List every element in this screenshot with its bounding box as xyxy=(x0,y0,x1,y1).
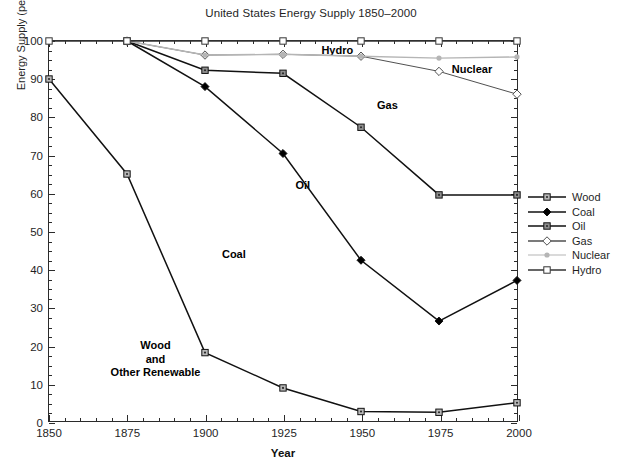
series-gas xyxy=(123,37,521,99)
data-point-marker xyxy=(202,349,208,355)
x-tick-label: 1950 xyxy=(350,427,376,439)
series-coal xyxy=(123,37,521,325)
data-point-marker xyxy=(514,192,520,198)
x-tick-label: 2000 xyxy=(506,427,532,439)
data-point-marker xyxy=(202,52,207,57)
y-tick-mark xyxy=(511,423,517,424)
legend-key-gas-icon xyxy=(527,235,567,247)
x-axis-label: Year xyxy=(49,447,517,459)
data-point-marker xyxy=(543,237,551,245)
energy-supply-chart: United States Energy Supply 1850–2000 En… xyxy=(0,0,622,466)
data-point-marker xyxy=(124,171,130,177)
y-tick-label: 60 xyxy=(30,188,43,200)
legend-key-coal-icon xyxy=(527,206,567,218)
data-point-marker xyxy=(514,400,520,406)
y-tick-mark xyxy=(49,423,55,424)
data-point-marker xyxy=(435,67,443,75)
data-point-marker xyxy=(202,67,208,73)
legend-key-oil-icon xyxy=(527,220,567,232)
data-point-marker xyxy=(543,208,551,216)
series-hydro xyxy=(46,38,520,44)
legend-item-hydro[interactable]: Hydro xyxy=(527,263,619,278)
data-point-marker xyxy=(280,70,286,76)
data-point-marker xyxy=(513,276,521,284)
data-point-marker xyxy=(514,38,520,44)
data-point-marker xyxy=(436,192,442,198)
series-wood xyxy=(46,76,520,416)
data-point-marker xyxy=(544,194,550,200)
legend-item-wood[interactable]: Wood xyxy=(527,190,619,205)
x-tick-mark xyxy=(519,415,520,421)
legend-label: Oil xyxy=(572,220,585,232)
legend-item-nuclear[interactable]: Nuclear xyxy=(527,248,619,263)
y-tick-label: 40 xyxy=(30,264,43,276)
data-point-marker xyxy=(280,52,285,57)
legend-key-hydro-icon xyxy=(527,264,567,276)
series-nuclear xyxy=(124,38,519,60)
chart-title: United States Energy Supply 1850–2000 xyxy=(0,7,622,19)
y-tick-label: 90 xyxy=(30,73,43,85)
data-point-marker xyxy=(202,38,208,44)
data-point-marker xyxy=(544,267,550,273)
x-tick-label: 1900 xyxy=(193,427,219,439)
data-point-marker xyxy=(358,124,364,130)
y-tick-label: 30 xyxy=(30,302,43,314)
data-point-marker xyxy=(436,38,442,44)
y-tick-label: 100 xyxy=(24,35,43,47)
y-tick-label: 80 xyxy=(30,111,43,123)
legend-item-coal[interactable]: Coal xyxy=(527,205,619,220)
data-point-marker xyxy=(358,408,364,414)
legend-key-wood-icon xyxy=(527,191,567,203)
data-point-marker xyxy=(436,409,442,415)
data-point-marker xyxy=(358,38,364,44)
data-point-marker xyxy=(280,38,286,44)
legend-label: Gas xyxy=(572,235,592,247)
legend-item-gas[interactable]: Gas xyxy=(527,234,619,249)
legend-item-oil[interactable]: Oil xyxy=(527,219,619,234)
legend-key-nuclear-icon xyxy=(527,249,567,261)
x-tick-label: 1875 xyxy=(115,427,141,439)
y-axis-label: Energy Supply (percent) xyxy=(15,0,27,131)
legend-label: Nuclear xyxy=(572,249,610,261)
chart-legend: WoodCoalOilGasNuclearHydro xyxy=(527,190,619,277)
data-point-marker xyxy=(514,54,519,59)
data-point-marker xyxy=(544,223,550,229)
data-point-marker xyxy=(358,54,363,59)
x-tick-label: 1975 xyxy=(428,427,454,439)
legend-label: Coal xyxy=(572,206,595,218)
data-point-marker xyxy=(280,385,286,391)
data-point-marker xyxy=(513,90,521,98)
legend-label: Wood xyxy=(572,191,601,203)
y-tick-label: 20 xyxy=(30,341,43,353)
y-tick-label: 70 xyxy=(30,150,43,162)
y-tick-label: 50 xyxy=(30,226,43,238)
series-lines xyxy=(49,41,517,421)
y-tick-label: 10 xyxy=(30,379,43,391)
x-tick-label: 1850 xyxy=(36,427,62,439)
data-point-marker xyxy=(544,253,549,258)
data-point-marker xyxy=(124,38,130,44)
data-point-marker xyxy=(46,38,52,44)
series-oil xyxy=(124,38,520,198)
x-tick-label: 1925 xyxy=(271,427,297,439)
data-point-marker xyxy=(436,56,441,61)
plot-area: Energy Supply (percent) Year 01020304050… xyxy=(48,40,518,422)
data-point-marker xyxy=(46,76,52,82)
legend-label: Hydro xyxy=(572,264,601,276)
